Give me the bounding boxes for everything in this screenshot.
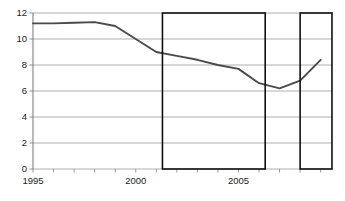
y-tick-label-12: 12 — [16, 7, 27, 18]
y-tick-label-6: 6 — [22, 85, 27, 96]
y-tick-label-10: 10 — [16, 33, 27, 44]
x-tick-label-2005: 2005 — [228, 175, 249, 186]
y-tick-label-2: 2 — [22, 137, 27, 148]
x-tick-label-2000: 2000 — [125, 175, 146, 186]
line-chart: 024681012 199520002005 — [0, 0, 345, 201]
y-tick-label-4: 4 — [22, 111, 27, 122]
chart-background — [0, 0, 345, 201]
y-tick-label-8: 8 — [22, 59, 27, 70]
x-tick-label-1995: 1995 — [22, 175, 43, 186]
y-tick-label-0: 0 — [22, 163, 27, 174]
chart-canvas: 024681012 199520002005 — [0, 0, 345, 201]
